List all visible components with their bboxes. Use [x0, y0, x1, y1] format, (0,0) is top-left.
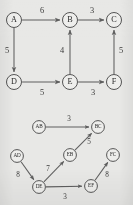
node-label-DE: DE	[36, 183, 43, 189]
edge-weight-EB-BC: 5	[87, 138, 91, 146]
line-graph: 357838ABBCADEBFCDEEF	[11, 115, 120, 201]
node-label-C: C	[111, 15, 117, 24]
edge-weight-DE: 5	[40, 88, 44, 97]
node-label-AB: AB	[36, 123, 44, 129]
node-label-FC: FC	[110, 151, 117, 157]
edge-weight-AD-DE: 8	[16, 171, 20, 179]
node-label-A: A	[11, 15, 17, 24]
node-label-EF: EF	[88, 182, 94, 188]
graph-edge-DE-EF	[46, 186, 82, 187]
node-label-E: E	[67, 77, 72, 86]
node-label-F: F	[112, 77, 117, 86]
graph-figure: 6354553ABCDEF 357838ABBCADEBFCDEEF	[0, 0, 133, 205]
edge-weight-EB: 4	[60, 46, 65, 55]
edge-weight-AD: 5	[5, 46, 9, 55]
edge-weight-DE-EF: 3	[63, 193, 67, 201]
graph-canvas: 6354553ABCDEF 357838ABBCADEBFCDEEF	[0, 0, 133, 205]
edge-weight-BC: 3	[90, 6, 94, 15]
edge-weight-DE-EB: 7	[46, 165, 50, 173]
graph-edge-AD-DE	[21, 162, 34, 180]
edge-weight-EF: 3	[91, 88, 95, 97]
edge-weight-EF-FC: 8	[105, 171, 109, 179]
edge-weight-AB-BC: 3	[67, 115, 71, 123]
node-label-BC: BC	[95, 123, 102, 129]
node-label-B: B	[67, 15, 73, 24]
node-label-EB: EB	[67, 151, 74, 157]
edge-weight-FC: 5	[119, 46, 123, 55]
node-label-AD: AD	[13, 152, 21, 158]
node-label-D: D	[11, 77, 17, 86]
original-graph: 6354553ABCDEF	[5, 6, 123, 97]
edge-weight-AB: 6	[40, 6, 44, 15]
